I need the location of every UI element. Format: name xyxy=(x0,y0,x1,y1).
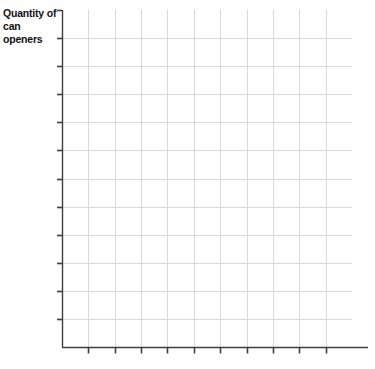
y-axis-ticks xyxy=(57,11,62,320)
chart-axes xyxy=(0,0,375,369)
x-axis-ticks xyxy=(89,348,327,354)
chart-page: Quantity of can openers xyxy=(0,0,375,369)
